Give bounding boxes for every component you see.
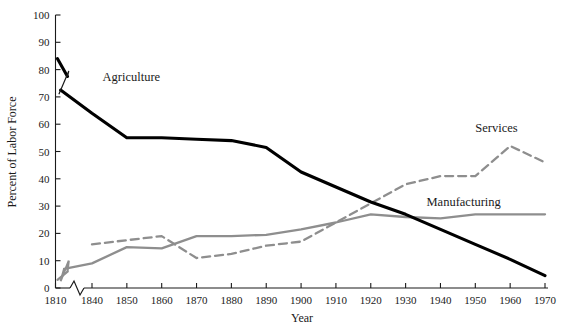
svg-text:1810: 1810 [45,294,68,306]
x-axis-tick-labels: 1810184018501860187018801890190019101920… [45,294,557,306]
svg-text:1900: 1900 [290,294,313,306]
svg-text:1890: 1890 [255,294,278,306]
series-line-agriculture [58,59,546,276]
series-line-manufacturing [58,214,546,279]
svg-text:1970: 1970 [534,294,557,306]
svg-text:20: 20 [39,227,51,239]
svg-text:0: 0 [44,282,50,294]
series-label-agriculture: Agriculture [103,70,161,84]
chart-container: 0102030405060708090100 18101840185018601… [0,0,582,331]
line-chart: 0102030405060708090100 18101840185018601… [0,0,582,331]
svg-text:40: 40 [39,173,51,185]
x-axis-break-mark [70,281,84,295]
svg-text:1930: 1930 [395,294,418,306]
svg-text:1870: 1870 [186,294,209,306]
svg-text:1920: 1920 [360,294,383,306]
series-label-services: Services [475,121,517,135]
svg-text:80: 80 [39,64,51,76]
y-axis-ticks [56,15,61,288]
svg-text:100: 100 [33,9,50,21]
series-label-manufacturing: Manufacturing [427,195,502,209]
svg-text:1960: 1960 [499,294,522,306]
y-axis-tick-labels: 0102030405060708090100 [33,9,50,294]
svg-text:1840: 1840 [81,294,104,306]
svg-text:60: 60 [39,118,51,130]
svg-text:10: 10 [39,255,51,267]
svg-text:1940: 1940 [429,294,452,306]
svg-text:90: 90 [39,36,51,48]
svg-text:30: 30 [39,200,51,212]
svg-text:1880: 1880 [220,294,243,306]
y-axis-title: Percent of Labor Force [5,97,19,208]
svg-text:70: 70 [39,91,51,103]
svg-text:1910: 1910 [325,294,348,306]
svg-text:1850: 1850 [116,294,139,306]
x-axis-title: Year [291,311,313,325]
x-axis-ticks [56,283,546,288]
svg-text:1860: 1860 [151,294,174,306]
svg-text:1950: 1950 [464,294,487,306]
svg-text:50: 50 [39,146,51,158]
manufacturing-axis-break-mark [61,261,69,282]
